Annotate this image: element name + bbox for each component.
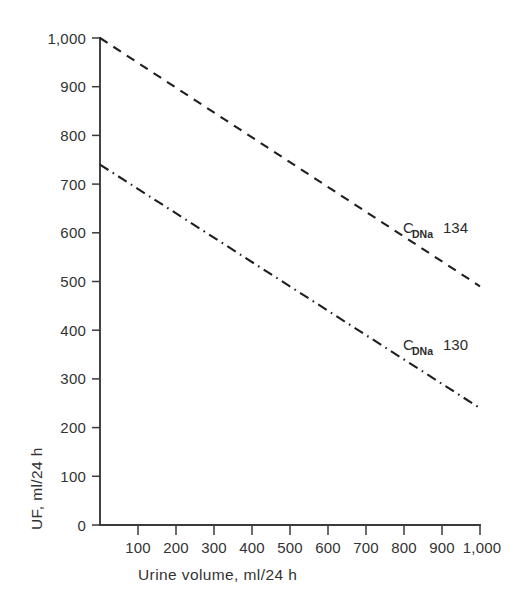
x-tick-labels: 100 200 300 400 500 600 700 800 900 1,00… <box>125 539 501 556</box>
x-tick-label-1000: 1,000 <box>463 539 502 556</box>
x-tick-marks <box>138 525 480 535</box>
series-label-130-value: 130 <box>443 336 468 353</box>
series-line-cdna-134 <box>100 38 480 286</box>
x-tick-label-400: 400 <box>239 539 265 556</box>
y-tick-label-200: 200 <box>60 419 86 436</box>
y-tick-label-900: 900 <box>60 78 86 95</box>
x-tick-label-500: 500 <box>277 539 303 556</box>
x-tick-label-700: 700 <box>353 539 379 556</box>
y-tick-label-600: 600 <box>60 224 86 241</box>
x-tick-label-200: 200 <box>163 539 189 556</box>
series-annotation-cdna-130: C DNa 130 <box>403 336 468 357</box>
series-annotation-cdna-134: C DNa 134 <box>403 219 468 240</box>
x-axis-title: Urine volume, ml/24 h <box>138 566 297 583</box>
x-tick-label-900: 900 <box>429 539 455 556</box>
y-tick-label-400: 400 <box>60 322 86 339</box>
chart-figure: 1,000 900 800 700 600 500 400 300 200 10… <box>0 0 521 611</box>
y-tick-marks <box>92 38 100 525</box>
x-tick-label-100: 100 <box>125 539 151 556</box>
y-tick-label-800: 800 <box>60 127 86 144</box>
y-tick-label-700: 700 <box>60 176 86 193</box>
y-tick-label-500: 500 <box>60 273 86 290</box>
x-tick-label-600: 600 <box>315 539 341 556</box>
y-tick-label-0: 0 <box>77 517 86 534</box>
series-label-130-subscript: DNa <box>412 345 433 357</box>
series-label-134-subscript: DNa <box>412 228 433 240</box>
series-label-134-value: 134 <box>443 219 468 236</box>
line-chart: 1,000 900 800 700 600 500 400 300 200 10… <box>0 0 521 611</box>
x-tick-label-800: 800 <box>391 539 417 556</box>
y-tick-labels: 1,000 900 800 700 600 500 400 300 200 10… <box>47 30 86 534</box>
y-axis-title: UF, ml/24 h <box>28 447 45 530</box>
y-tick-label-100: 100 <box>60 468 86 485</box>
y-tick-label-300: 300 <box>60 370 86 387</box>
axis-group <box>100 38 480 525</box>
x-tick-label-300: 300 <box>201 539 227 556</box>
y-tick-label-1000: 1,000 <box>47 30 86 47</box>
series-line-cdna-130 <box>100 165 480 409</box>
